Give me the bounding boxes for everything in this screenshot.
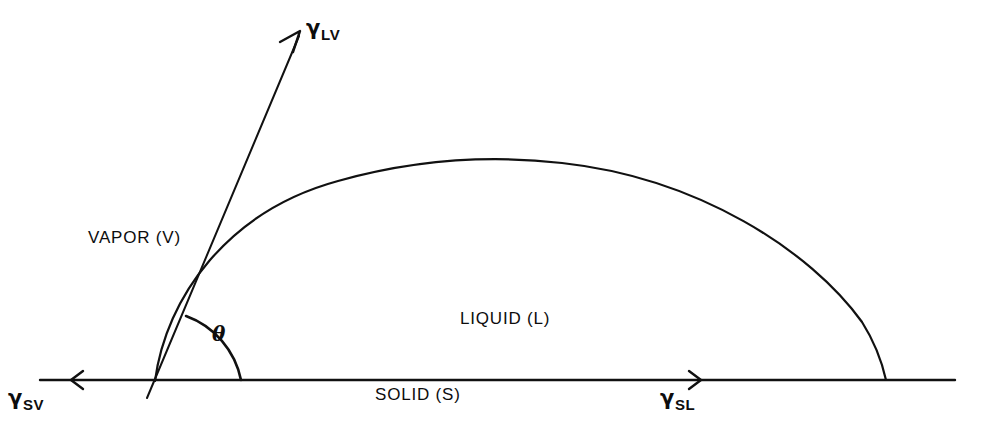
gamma-sv-symbol: γ bbox=[8, 386, 23, 410]
liquid-phase-label: LIQUID (L) bbox=[460, 309, 550, 329]
gamma-lv-arrow-icon bbox=[280, 31, 300, 52]
diagram-canvas bbox=[0, 0, 988, 445]
gamma-lv-subscript: LV bbox=[321, 26, 340, 43]
gamma-lv-symbol: γ bbox=[306, 16, 321, 40]
contact-angle-diagram: γLV γSV γSL VAPOR (V) LIQUID (L) SOLID (… bbox=[0, 0, 988, 445]
solid-phase-label: SOLID (S) bbox=[375, 385, 461, 405]
gamma-sl-subscript: SL bbox=[675, 396, 695, 413]
gamma-sv-label: γSV bbox=[8, 386, 44, 410]
vapor-phase-label: VAPOR (V) bbox=[88, 228, 181, 248]
gamma-sv-subscript: SV bbox=[23, 396, 44, 413]
contact-angle-theta-label: θ bbox=[212, 322, 226, 346]
gamma-sl-label: γSL bbox=[660, 386, 695, 410]
gamma-lv-label: γLV bbox=[306, 16, 340, 40]
gamma-sl-symbol: γ bbox=[660, 386, 675, 410]
droplet-profile-curve bbox=[155, 159, 886, 381]
